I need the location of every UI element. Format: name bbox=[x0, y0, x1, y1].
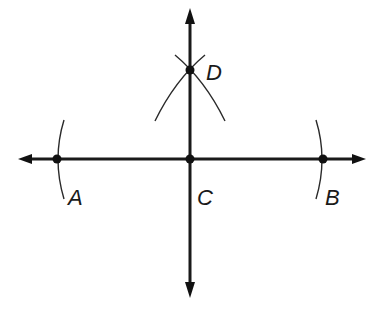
label-B: B bbox=[325, 185, 340, 210]
label-A: A bbox=[66, 185, 83, 210]
point-C bbox=[186, 155, 195, 164]
point-A bbox=[53, 155, 62, 164]
arrow-up-icon bbox=[185, 8, 195, 24]
arc-from-A bbox=[155, 55, 205, 121]
arrow-left-icon bbox=[18, 154, 32, 164]
arrow-right-icon bbox=[352, 154, 366, 164]
label-C: C bbox=[197, 185, 213, 210]
vertical-line bbox=[185, 8, 195, 298]
point-D bbox=[186, 66, 195, 75]
label-D: D bbox=[206, 60, 222, 85]
perpendicular-construction-diagram: A B C D bbox=[0, 0, 386, 317]
arrow-down-icon bbox=[185, 282, 195, 298]
point-B bbox=[319, 155, 328, 164]
